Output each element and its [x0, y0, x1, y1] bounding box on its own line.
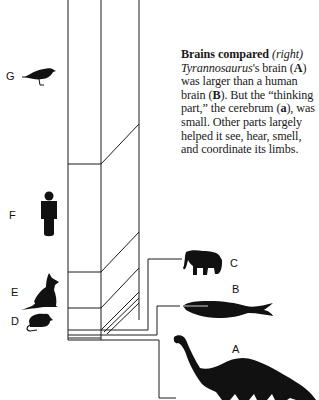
mouse-icon [27, 314, 53, 331]
label-B: B [232, 283, 239, 295]
caption-genus: Tyrannosaurus [181, 61, 253, 75]
cat-icon [21, 273, 59, 310]
scale-bar [68, 0, 139, 340]
label-G: G [6, 70, 15, 82]
label-A: A [232, 343, 239, 355]
caption-title-note: (right) [272, 47, 303, 61]
label-C: C [230, 257, 238, 269]
human-icon [41, 192, 57, 237]
caption-title: Brains compared [181, 47, 269, 61]
caption: Brains compared (right) Tyrannosaurus's … [181, 48, 317, 157]
label-D: D [11, 315, 19, 327]
bird-icon [22, 68, 56, 85]
label-E: E [11, 286, 18, 298]
caption-text-1: 's brain ( [253, 61, 294, 75]
whale-icon [183, 301, 273, 318]
dinosaur-icon [174, 335, 316, 400]
label-F: F [9, 209, 16, 221]
elephant-icon [183, 250, 222, 275]
